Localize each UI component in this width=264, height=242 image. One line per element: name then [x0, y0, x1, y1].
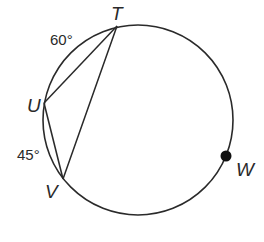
arc-label-uv: 45° — [17, 146, 40, 163]
chord-tv — [63, 26, 117, 179]
circle — [43, 25, 233, 215]
chord-uv — [44, 103, 63, 179]
arc-label-tu: 60° — [50, 31, 73, 48]
point-w-dot — [221, 151, 232, 162]
label-u: U — [27, 95, 41, 116]
label-t: T — [111, 3, 124, 24]
circle-diagram: T U V W 60° 45° — [0, 0, 264, 242]
label-w: W — [236, 159, 256, 180]
label-v: V — [45, 181, 60, 202]
